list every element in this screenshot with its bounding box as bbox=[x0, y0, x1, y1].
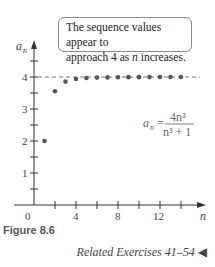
svg-text:4: 4 bbox=[22, 71, 28, 83]
data-point bbox=[137, 75, 142, 80]
data-point bbox=[116, 75, 121, 80]
svg-text:n: n bbox=[150, 123, 154, 132]
data-point bbox=[158, 75, 163, 80]
annotation-callout: The sequence values appear to approach 4… bbox=[58, 17, 192, 52]
arrow-left-icon: ◀ bbox=[198, 245, 207, 259]
svg-text:2: 2 bbox=[22, 135, 28, 147]
svg-text:0: 0 bbox=[25, 210, 31, 222]
data-point bbox=[126, 75, 131, 80]
data-point bbox=[95, 75, 100, 80]
svg-text:n³ + 1: n³ + 1 bbox=[163, 125, 191, 139]
y-axis-label: a bbox=[16, 39, 22, 53]
data-point bbox=[74, 77, 79, 82]
x-axis-label: n bbox=[200, 209, 206, 223]
data-point bbox=[63, 79, 68, 84]
y-axis-arrow-icon bbox=[31, 40, 37, 49]
data-point bbox=[105, 75, 110, 80]
data-point bbox=[42, 139, 47, 144]
data-point bbox=[84, 76, 89, 81]
annotation-line-1: The sequence values appear to bbox=[66, 20, 191, 50]
data-point bbox=[168, 75, 173, 80]
svg-text:12: 12 bbox=[153, 210, 164, 222]
svg-text:n: n bbox=[23, 46, 27, 55]
svg-text:4: 4 bbox=[73, 210, 79, 222]
svg-text:a: a bbox=[143, 116, 149, 130]
tick-labels: 4 3 2 1 0 4 8 12 bbox=[22, 71, 164, 222]
x-axis-arrow-icon bbox=[197, 202, 206, 208]
svg-text:8: 8 bbox=[115, 210, 121, 222]
figure-label: Figure 8.6 bbox=[3, 224, 55, 236]
data-point bbox=[53, 89, 58, 94]
svg-text:4n³: 4n³ bbox=[170, 110, 186, 124]
svg-text:1: 1 bbox=[22, 167, 28, 179]
data-point bbox=[147, 75, 152, 80]
formula: a n = 4n³ n³ + 1 bbox=[143, 110, 194, 139]
data-point bbox=[179, 75, 184, 80]
related-exercises[interactable]: Related Exercises 41–54 ◀ bbox=[77, 245, 207, 260]
annotation-line-2: approach 4 as n increases. bbox=[66, 50, 191, 65]
svg-text:3: 3 bbox=[22, 103, 28, 115]
